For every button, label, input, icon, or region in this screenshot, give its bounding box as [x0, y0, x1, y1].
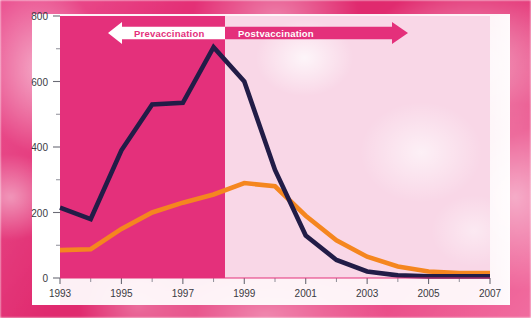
plot-canvas: [0, 0, 531, 318]
x-tick-label: 2005: [407, 288, 451, 299]
x-tick-label: 1993: [38, 288, 82, 299]
x-tick-label: 1995: [99, 288, 143, 299]
x-tick-label: 2007: [468, 288, 512, 299]
tick-layer: [53, 16, 490, 284]
x-tick-label: 1997: [161, 288, 205, 299]
x-tick-label: 2001: [284, 288, 328, 299]
series-layer: [60, 47, 490, 276]
chart-figure: Prevaccination Postvaccination 020040060…: [0, 0, 531, 318]
y-tick-label: 600: [8, 76, 48, 87]
x-tick-label: 2003: [345, 288, 389, 299]
y-tick-label: 400: [8, 142, 48, 153]
series-line-orange-series: [60, 183, 490, 273]
x-tick-label: 1999: [222, 288, 266, 299]
series-line-navy-series: [60, 47, 490, 276]
y-tick-label: 200: [8, 207, 48, 218]
y-tick-label: 800: [8, 11, 48, 22]
y-tick-label: 0: [8, 273, 48, 284]
